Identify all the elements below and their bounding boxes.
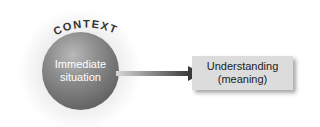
sphere-label-line2: situation	[60, 71, 101, 84]
arrow-icon	[116, 64, 204, 84]
sphere-label-line1: Immediate	[55, 58, 106, 71]
immediate-situation-sphere: Immediate situation	[42, 32, 119, 110]
box-label-line1: Understanding	[207, 60, 279, 73]
understanding-box: Understanding (meaning)	[192, 56, 293, 90]
box-label-line2: (meaning)	[218, 73, 268, 86]
